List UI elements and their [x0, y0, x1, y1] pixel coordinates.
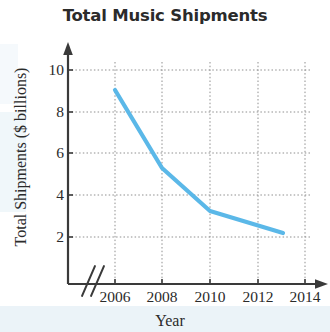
chart-figure: Total Music Shipments Total Shipments ($… — [0, 0, 330, 332]
y-axis — [63, 42, 73, 284]
horizontal-gridlines — [68, 70, 312, 237]
axis-break-symbol — [82, 266, 104, 296]
plot-area — [0, 0, 330, 332]
x-axis — [68, 279, 328, 289]
vertical-gridlines — [115, 62, 305, 284]
